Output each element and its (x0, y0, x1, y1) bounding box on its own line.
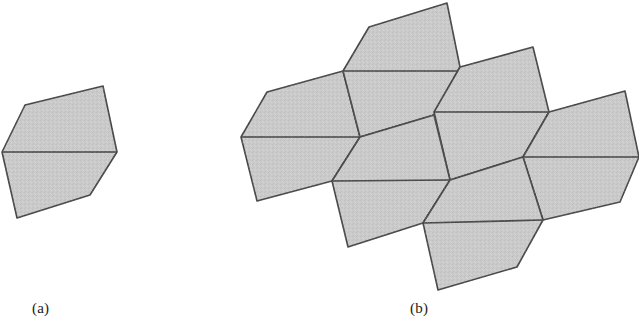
figure-root: (a) (b) (0, 0, 639, 335)
tile-center-left-chord-line (332, 180, 450, 181)
figure-canvas (0, 0, 639, 335)
